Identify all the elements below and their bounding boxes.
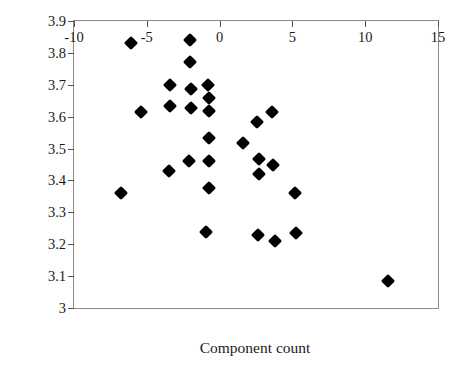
data-point [202, 154, 216, 168]
data-point [268, 234, 282, 248]
data-point [183, 55, 197, 69]
data-point [163, 99, 177, 113]
data-point [114, 186, 128, 200]
y-axis-title: Log (identification time) [0, 0, 19, 64]
scatter-plot-figure: Log (identification time) 3.93.83.73.63.… [0, 0, 456, 371]
y-tick-label: 3.6 [48, 109, 66, 124]
data-point [199, 225, 213, 239]
x-tick-mark [438, 21, 439, 27]
y-tick-mark [68, 308, 74, 309]
data-points-layer [74, 21, 438, 308]
data-point [134, 105, 148, 119]
plot-area: 3.93.83.73.63.53.43.33.23.13 -10-5051015 [73, 20, 439, 309]
data-point [182, 154, 196, 168]
data-point [265, 105, 279, 119]
data-point [381, 274, 395, 288]
data-point [266, 157, 280, 171]
data-point [184, 101, 198, 115]
data-point [201, 78, 215, 92]
data-point [236, 136, 250, 150]
data-point [252, 167, 266, 181]
data-point [202, 181, 216, 195]
data-point [184, 82, 198, 96]
y-tick-label: 3.8 [48, 46, 66, 61]
y-tick-label: 3.1 [48, 269, 66, 284]
data-point [183, 33, 197, 47]
data-point [163, 78, 177, 92]
data-point [289, 226, 303, 240]
y-tick-label: 3.3 [48, 205, 66, 220]
y-tick-label: 3.2 [48, 237, 66, 252]
y-tick-label: 3 [59, 301, 66, 316]
data-point [124, 36, 138, 50]
data-point [202, 104, 216, 118]
data-point [288, 186, 302, 200]
data-point [251, 228, 265, 242]
data-point [162, 164, 176, 178]
data-point [250, 115, 264, 129]
y-tick-label: 3.5 [48, 141, 66, 156]
data-point [252, 152, 266, 166]
data-point [202, 131, 216, 145]
y-tick-label: 3.4 [48, 173, 66, 188]
y-tick-label: 3.7 [48, 78, 66, 93]
y-tick-label: 3.9 [48, 14, 66, 29]
x-axis-title: Component count [73, 340, 437, 356]
